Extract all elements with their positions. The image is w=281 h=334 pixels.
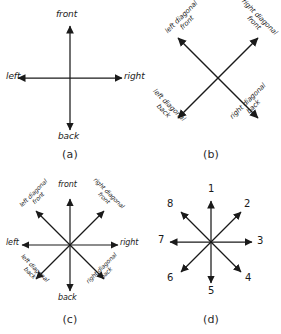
panel-caption-d: (d) <box>141 313 281 326</box>
panel-a-arrows <box>0 0 140 167</box>
label-direction-8: 8 <box>167 199 173 210</box>
label-direction-4: 4 <box>245 273 251 284</box>
label-direction-3: 3 <box>257 236 263 247</box>
label-direction-6: 6 <box>167 273 173 284</box>
label-front: front <box>58 181 77 189</box>
arrow-right-diagonal-front <box>70 211 104 245</box>
label-back: back <box>58 294 77 302</box>
arrow-right-diagonal-front <box>218 38 258 78</box>
panel-a: front right back left (a) <box>0 0 140 167</box>
panel-c: front right back left left diagonal fron… <box>0 167 140 334</box>
arrow-left-diagonal-front <box>36 211 70 245</box>
label-front: front <box>56 10 77 19</box>
arrow-direction-4 <box>211 242 241 272</box>
label-direction-5: 5 <box>208 286 214 297</box>
arrow-left-diagonal-front <box>178 38 218 78</box>
label-left: left <box>6 239 19 247</box>
panel-b: left diagonal front right diagonal front… <box>141 0 281 167</box>
panel-caption-a: (a) <box>0 148 140 161</box>
label-right: right <box>120 239 138 247</box>
panel-caption-c: (c) <box>0 313 140 326</box>
label-direction-1: 1 <box>208 184 214 195</box>
panel-caption-b: (b) <box>141 148 281 161</box>
arrow-direction-2 <box>211 212 241 242</box>
panel-c-arrows <box>0 167 140 334</box>
panel-d: 1 2 3 4 5 6 7 8 (d) <box>141 167 281 334</box>
arrow-direction-6 <box>181 242 211 272</box>
arrow-direction-8 <box>181 212 211 242</box>
label-direction-2: 2 <box>244 199 250 210</box>
arrow-left-diagonal-back <box>178 78 218 118</box>
label-left: left <box>6 72 20 81</box>
direction-diagram-figure: front right back left (a) left diagonal … <box>0 0 281 334</box>
label-back: back <box>58 132 79 141</box>
label-direction-7: 7 <box>158 235 164 246</box>
